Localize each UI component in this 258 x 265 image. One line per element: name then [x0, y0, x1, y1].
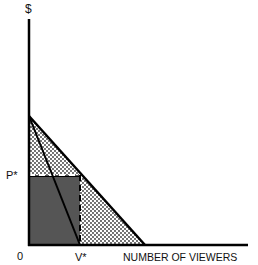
price-label: P* — [6, 169, 18, 181]
y-axis-label: $ — [25, 2, 32, 16]
diagram-canvas — [0, 0, 258, 265]
revenue-rectangle — [29, 175, 80, 245]
origin-label: 0 — [17, 250, 23, 262]
quantity-label: V* — [75, 251, 87, 263]
x-axis-label: NUMBER OF VIEWERS — [123, 251, 237, 263]
